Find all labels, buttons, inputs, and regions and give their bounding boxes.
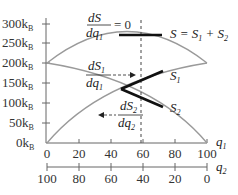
svg-text:80: 80 (169, 146, 182, 161)
q2-axis-label: q2 (216, 159, 227, 176)
q1-tick-labels: 0 20 40 60 80 100 (44, 146, 217, 161)
svg-text:100: 100 (37, 171, 57, 186)
svg-text:100kB: 100kB (2, 95, 33, 112)
svg-text:dq2: dq2 (118, 115, 135, 132)
svg-text:dq1: dq1 (86, 25, 103, 42)
left-arrowhead-icon (98, 112, 104, 118)
ds-dq1-zero-annotation: dS dq1 = 0 (86, 10, 131, 42)
svg-text:dS: dS (88, 10, 102, 25)
svg-text:60: 60 (137, 146, 150, 161)
svg-text:= 0: = 0 (114, 17, 131, 32)
chart: 300kB 250kB 200kB 150kB 100kB 50kB 0kB 0… (0, 0, 238, 195)
s2-label: S2 (170, 100, 181, 117)
svg-text:60: 60 (105, 171, 118, 186)
svg-text:300kB: 300kB (2, 16, 33, 33)
right-arrowhead-icon (130, 72, 136, 78)
svg-text:dq1: dq1 (86, 75, 103, 92)
svg-text:40: 40 (137, 171, 150, 186)
svg-text:0: 0 (204, 171, 211, 186)
svg-text:dS1: dS1 (88, 58, 105, 75)
svg-text:200kB: 200kB (2, 55, 33, 72)
svg-text:100: 100 (197, 146, 217, 161)
svg-text:150kB: 150kB (2, 75, 33, 92)
q1-ticks (79, 139, 207, 143)
y-tick-labels: 300kB 250kB 200kB 150kB 100kB 50kB 0kB (2, 16, 34, 152)
svg-text:0kB: 0kB (16, 135, 34, 152)
svg-text:80: 80 (73, 171, 86, 186)
q1-axis-label: q1 (216, 134, 227, 151)
svg-text:40: 40 (105, 146, 118, 161)
s1-label: S1 (170, 68, 181, 85)
svg-text:dS2: dS2 (120, 98, 137, 115)
s1-tangent (121, 71, 163, 89)
ds2-dq2-annotation: dS2 dq2 (98, 98, 143, 132)
svg-text:0: 0 (44, 146, 51, 161)
svg-text:20: 20 (73, 146, 86, 161)
svg-text:250kB: 250kB (2, 35, 33, 52)
svg-text:20: 20 (169, 171, 182, 186)
svg-text:50kB: 50kB (9, 115, 34, 132)
q2-tick-labels: 100 80 60 40 20 0 (37, 171, 210, 186)
s-total-label: S = S1 + S2 (170, 26, 228, 43)
